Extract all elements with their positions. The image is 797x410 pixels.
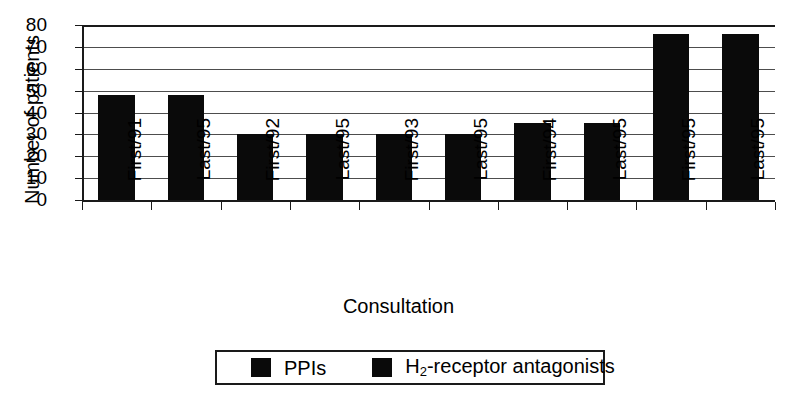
- x-tick-mark: [636, 202, 637, 210]
- x-tick-mark: [82, 202, 83, 210]
- x-tick-mark: [290, 202, 291, 210]
- y-tick-label-40: 40: [7, 103, 47, 122]
- x-tick-label: First/94: [540, 118, 559, 238]
- legend-entry: H2-receptor antagonists: [372, 356, 615, 379]
- y-tick-label-10: 10: [7, 168, 47, 187]
- chart-legend: PPIsH2-receptor antagonists: [215, 350, 605, 385]
- legend-label: H2-receptor antagonists: [405, 356, 615, 379]
- y-tick-label-60: 60: [7, 59, 47, 78]
- x-tick-mark: [359, 202, 360, 210]
- x-tick-mark: [151, 202, 152, 210]
- y-tick-mark-10: [75, 178, 82, 179]
- x-tick-mark: [498, 202, 499, 210]
- x-tick-mark: [221, 202, 222, 210]
- legend-swatch: [372, 358, 392, 377]
- x-tick-label: Last/95: [333, 118, 352, 238]
- y-tick-label-0: 0: [7, 190, 47, 209]
- x-tick-label: First/91: [125, 118, 144, 238]
- x-tick-mark: [429, 202, 430, 210]
- plot-area: 80706050403020100 First/91Last/95First/9…: [82, 25, 775, 200]
- x-axis-title: Consultation: [0, 295, 797, 318]
- x-tick-label: Last/95: [471, 118, 490, 238]
- legend-entry: PPIs: [251, 358, 326, 378]
- legend-swatch: [251, 358, 271, 377]
- y-tick-mark-60: [75, 69, 82, 70]
- y-tick-mark-70: [75, 47, 82, 48]
- x-tick-mark: [567, 202, 568, 210]
- gridline-80: [82, 25, 775, 27]
- y-tick-mark-40: [75, 113, 82, 114]
- x-tick-label: Last/95: [194, 118, 213, 238]
- y-tick-mark-50: [75, 91, 82, 92]
- y-tick-label-20: 20: [7, 146, 47, 165]
- x-tick-label: Last/95: [610, 118, 629, 238]
- y-tick-label-80: 80: [7, 15, 47, 34]
- x-tick-mark: [706, 202, 707, 210]
- y-tick-mark-0: [75, 200, 82, 201]
- y-tick-mark-20: [75, 156, 82, 157]
- y-tick-mark-80: [75, 25, 82, 26]
- y-axis-line: [82, 25, 84, 201]
- y-tick-label-30: 30: [7, 124, 47, 143]
- legend-label: PPIs: [284, 358, 326, 378]
- bar-chart-figure: Number of patients 80706050403020100 Fir…: [0, 0, 797, 410]
- y-tick-label-50: 50: [7, 81, 47, 100]
- x-tick-label: First/93: [402, 118, 421, 238]
- x-tick-label: First/92: [263, 118, 282, 238]
- y-tick-mark-30: [75, 134, 82, 135]
- x-tick-label: Last/95: [748, 118, 767, 238]
- x-tick-mark: [775, 202, 776, 210]
- y-tick-label-70: 70: [7, 37, 47, 56]
- x-tick-label: First/95: [679, 118, 698, 238]
